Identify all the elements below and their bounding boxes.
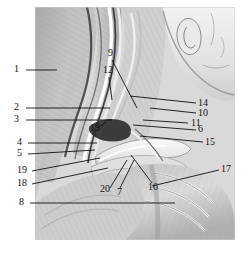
- labels-svg: 1234567891011121314151617181920: [0, 0, 250, 254]
- label-number-13[interactable]: 13: [90, 122, 100, 133]
- label-number-9[interactable]: 9: [108, 47, 113, 58]
- label-overlay: 1234567891011121314151617181920: [0, 0, 250, 254]
- label-number-11[interactable]: 11: [191, 117, 201, 128]
- leader-line-6: [133, 125, 196, 130]
- leader-line-16: [131, 155, 152, 183]
- leader-line-15: [140, 136, 203, 142]
- leader-line-19: [32, 158, 100, 171]
- leader-line-14: [130, 96, 196, 103]
- label-number-20[interactable]: 20: [100, 183, 110, 194]
- leader-line-7: [120, 160, 134, 188]
- label-number-8[interactable]: 8: [19, 196, 24, 207]
- leader-lines: [26, 60, 219, 203]
- label-number-14[interactable]: 14: [198, 97, 208, 108]
- leader-line-11: [143, 120, 188, 123]
- label-number-16[interactable]: 16: [148, 181, 158, 192]
- label-number-19[interactable]: 19: [17, 164, 27, 175]
- leader-line-5: [28, 150, 95, 154]
- label-number-5[interactable]: 5: [17, 147, 22, 158]
- label-number-12[interactable]: 12: [103, 64, 113, 75]
- leader-line-10: [150, 108, 196, 113]
- label-number-15[interactable]: 15: [205, 136, 215, 147]
- label-number-2[interactable]: 2: [14, 101, 19, 112]
- label-number-7[interactable]: 7: [117, 186, 122, 197]
- label-number-18[interactable]: 18: [17, 177, 27, 188]
- label-number-1[interactable]: 1: [14, 63, 19, 74]
- label-number-4[interactable]: 4: [17, 136, 22, 147]
- leader-line-17: [152, 170, 219, 186]
- label-number-3[interactable]: 3: [14, 113, 19, 124]
- anatomy-figure: 1234567891011121314151617181920: [0, 0, 250, 254]
- leader-line-20: [110, 160, 127, 188]
- leader-line-18: [32, 168, 108, 184]
- label-number-17[interactable]: 17: [221, 163, 231, 174]
- leader-line-9: [112, 60, 137, 108]
- leader-line-12: [109, 77, 112, 100]
